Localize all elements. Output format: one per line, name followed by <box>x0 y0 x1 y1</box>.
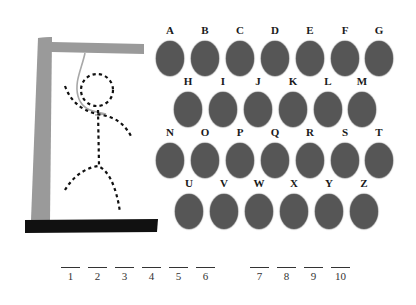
blank-position-number: 3 <box>115 269 134 283</box>
gallows-post <box>31 37 52 220</box>
letter-key-label: E <box>296 24 324 36</box>
blank-underline <box>142 267 161 268</box>
letter-key-k[interactable]: K <box>279 75 307 129</box>
letter-key-p[interactable]: P <box>226 126 254 180</box>
blank-underline <box>61 267 80 268</box>
letter-key-disc[interactable] <box>365 143 393 178</box>
letter-key-disc[interactable] <box>279 92 307 127</box>
letter-key-n[interactable]: N <box>156 126 184 180</box>
letter-key-label: S <box>331 126 359 138</box>
letter-key-label: N <box>156 126 184 138</box>
letter-key-f[interactable]: F <box>331 24 359 78</box>
letter-key-disc[interactable] <box>156 41 184 76</box>
letter-key-disc[interactable] <box>245 194 273 229</box>
letter-key-disc[interactable] <box>174 92 202 127</box>
letter-blank-9: 9 <box>304 267 323 289</box>
letter-key-label: H <box>174 75 202 87</box>
letter-key-disc[interactable] <box>331 41 359 76</box>
letter-key-disc[interactable] <box>314 92 342 127</box>
letter-key-label: U <box>175 177 203 189</box>
blank-underline <box>115 267 134 268</box>
letter-key-g[interactable]: G <box>365 24 393 78</box>
letter-key-label: X <box>280 177 308 189</box>
blank-underline <box>304 267 323 268</box>
blank-underline <box>250 267 269 268</box>
letter-key-label: T <box>365 126 393 138</box>
blank-underline <box>331 267 350 268</box>
letter-key-a[interactable]: A <box>156 24 184 78</box>
letter-key-disc[interactable] <box>244 92 272 127</box>
figure-head <box>81 74 113 106</box>
letter-key-disc[interactable] <box>315 194 343 229</box>
letter-blank-7: 7 <box>250 267 269 289</box>
blank-position-number: 7 <box>250 269 269 283</box>
letter-key-s[interactable]: S <box>331 126 359 180</box>
letter-blank-5: 5 <box>169 267 188 289</box>
letter-key-label: C <box>226 24 254 36</box>
letter-key-disc[interactable] <box>331 143 359 178</box>
letter-key-b[interactable]: B <box>191 24 219 78</box>
letter-key-disc[interactable] <box>191 143 219 178</box>
letter-key-t[interactable]: T <box>365 126 393 180</box>
letter-key-disc[interactable] <box>191 41 219 76</box>
letter-key-y[interactable]: Y <box>315 177 343 231</box>
blank-position-number: 1 <box>61 269 80 283</box>
letter-key-l[interactable]: L <box>314 75 342 129</box>
letter-key-label: B <box>191 24 219 36</box>
letter-key-label: K <box>279 75 307 87</box>
letter-key-disc[interactable] <box>350 194 378 229</box>
letter-key-disc[interactable] <box>226 143 254 178</box>
letter-key-disc[interactable] <box>280 194 308 229</box>
letter-key-x[interactable]: X <box>280 177 308 231</box>
letter-key-label: W <box>245 177 273 189</box>
letter-key-label: P <box>226 126 254 138</box>
letter-key-z[interactable]: Z <box>350 177 378 231</box>
letter-key-label: L <box>314 75 342 87</box>
letter-blank-1: 1 <box>61 267 80 289</box>
letter-key-u[interactable]: U <box>175 177 203 231</box>
blank-underline <box>169 267 188 268</box>
gallows-drawing <box>0 0 160 240</box>
letter-blank-4: 4 <box>142 267 161 289</box>
letter-key-disc[interactable] <box>348 92 376 127</box>
letter-key-w[interactable]: W <box>245 177 273 231</box>
letter-key-label: J <box>244 75 272 87</box>
letter-key-disc[interactable] <box>226 41 254 76</box>
blank-position-number: 2 <box>88 269 107 283</box>
letter-key-disc[interactable] <box>156 143 184 178</box>
letter-key-disc[interactable] <box>296 41 324 76</box>
letter-key-label: G <box>365 24 393 36</box>
letter-blank-6: 6 <box>196 267 215 289</box>
letter-key-disc[interactable] <box>261 143 289 178</box>
letter-key-disc[interactable] <box>365 41 393 76</box>
letter-key-h[interactable]: H <box>174 75 202 129</box>
gallows-base <box>25 219 158 233</box>
letter-key-i[interactable]: I <box>209 75 237 129</box>
letter-key-disc[interactable] <box>296 143 324 178</box>
blank-position-number: 4 <box>142 269 161 283</box>
letter-key-q[interactable]: Q <box>261 126 289 180</box>
letter-key-e[interactable]: E <box>296 24 324 78</box>
letter-key-d[interactable]: D <box>261 24 289 78</box>
letter-blank-8: 8 <box>277 267 296 289</box>
blank-position-number: 9 <box>304 269 323 283</box>
letter-key-disc[interactable] <box>261 41 289 76</box>
letter-key-m[interactable]: M <box>348 75 376 129</box>
letter-key-c[interactable]: C <box>226 24 254 78</box>
letter-blank-3: 3 <box>115 267 134 289</box>
letter-key-o[interactable]: O <box>191 126 219 180</box>
letter-blank-10: 10 <box>331 267 350 289</box>
blank-position-number: 6 <box>196 269 215 283</box>
letter-key-j[interactable]: J <box>244 75 272 129</box>
letter-key-label: V <box>210 177 238 189</box>
letter-key-label: I <box>209 75 237 87</box>
letter-key-v[interactable]: V <box>210 177 238 231</box>
letter-key-disc[interactable] <box>175 194 203 229</box>
letter-key-disc[interactable] <box>210 194 238 229</box>
letter-key-label: F <box>331 24 359 36</box>
letter-key-disc[interactable] <box>209 92 237 127</box>
letter-key-r[interactable]: R <box>296 126 324 180</box>
letter-key-label: Z <box>350 177 378 189</box>
gallows-beam <box>38 37 144 54</box>
blank-position-number: 10 <box>331 269 350 283</box>
